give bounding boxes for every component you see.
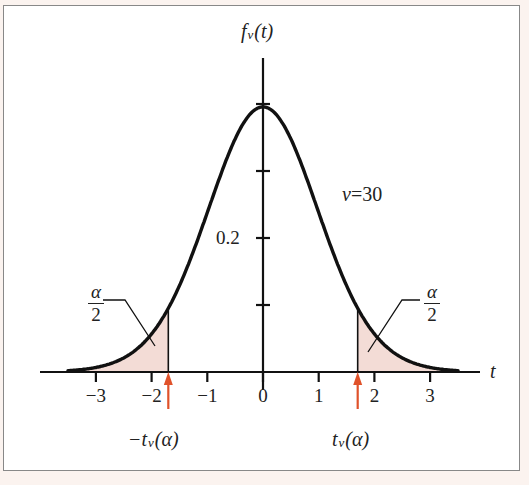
y-tick-label-0.2: 0.2 (216, 227, 240, 249)
critical-arg: (α) (155, 428, 179, 450)
y-axis-label: fν(t) (241, 20, 273, 43)
denominator: 2 (91, 304, 101, 325)
upper-critical-t: t (332, 428, 338, 450)
lower-tail-fraction: α 2 (88, 282, 104, 325)
x-tick-label: −2 (141, 385, 161, 407)
upper-tail-fraction: α 2 (424, 282, 440, 325)
t-distribution-plot (0, 0, 529, 485)
y-axis-label-sub: ν (248, 27, 254, 42)
nu-label: ν=30 (342, 183, 382, 206)
y-axis-label-f: f (241, 20, 247, 42)
x-tick-label: 0 (258, 385, 268, 407)
alpha-numerator: α (88, 282, 104, 302)
denominator: 2 (427, 304, 437, 325)
y-axis-label-arg: (t) (254, 20, 273, 42)
x-tick-label: 1 (314, 385, 324, 407)
upper-critical-label: tν(α) (332, 428, 369, 451)
critical-sub: ν (339, 435, 345, 450)
x-tick-label: 3 (425, 385, 435, 407)
lower-critical-label: −tν(α) (128, 428, 179, 451)
x-tick-label: −3 (86, 385, 106, 407)
alpha-numerator: α (424, 282, 440, 302)
x-tick-label: 2 (370, 385, 380, 407)
x-tick-label: −1 (197, 385, 217, 407)
critical-sub: ν (148, 435, 154, 450)
x-axis-label: t (490, 360, 496, 383)
critical-arg: (α) (345, 428, 369, 450)
upper-arrow-head (353, 372, 362, 385)
lower-critical-t: −t (128, 428, 147, 450)
lower-arrow-head (164, 372, 173, 385)
